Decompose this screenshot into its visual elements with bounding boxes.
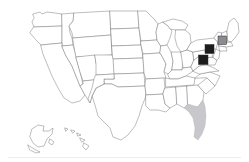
state-nebraska[interactable] xyxy=(112,45,143,59)
marker-new-york[interactable] xyxy=(205,45,214,54)
state-kansas[interactable] xyxy=(113,58,144,74)
inset-hawaii[interactable] xyxy=(65,128,89,150)
state-connecticut-rhode-island[interactable] xyxy=(219,46,227,51)
state-arkansas[interactable] xyxy=(145,78,165,95)
us-map-canvas[interactable] xyxy=(0,0,249,162)
state-wyoming[interactable] xyxy=(73,35,112,57)
state-oregon[interactable] xyxy=(30,26,62,45)
us-map-widget[interactable]: United States Map xyxy=(0,0,249,162)
state-outlines xyxy=(28,11,239,153)
state-alabama[interactable] xyxy=(176,86,188,108)
state-south-dakota[interactable] xyxy=(111,28,141,46)
state-iowa[interactable] xyxy=(141,40,161,54)
state-maine[interactable] xyxy=(227,18,239,42)
state-north-dakota[interactable] xyxy=(110,11,139,29)
inset-alaska[interactable] xyxy=(28,125,54,153)
state-florida-highlighted[interactable] xyxy=(184,100,206,140)
marker-northern-new-england[interactable] xyxy=(218,36,227,45)
state-washington[interactable] xyxy=(32,12,62,27)
state-minnesota[interactable] xyxy=(138,11,158,41)
state-montana[interactable] xyxy=(69,11,111,38)
footer-divider xyxy=(8,157,241,158)
state-colorado[interactable] xyxy=(95,55,114,75)
state-texas[interactable] xyxy=(92,84,146,140)
marker-pennsylvania[interactable] xyxy=(199,55,209,65)
